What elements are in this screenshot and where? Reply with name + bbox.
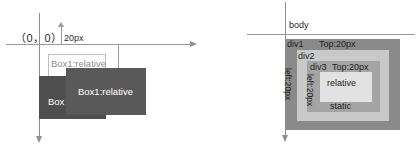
label-div3: div3	[310, 62, 327, 72]
label-div3-left: left:20px	[305, 74, 315, 106]
coordinate-offset-diagram: （0，0） 20px Box1:relative Box Box1:relati…	[0, 0, 209, 158]
label-static: static	[330, 101, 351, 111]
label-body: body	[289, 20, 309, 30]
nested-position-diagram: body div1 Top:20px left:20px div2 div3 T…	[209, 0, 417, 158]
x-axis-line	[247, 34, 415, 35]
y-axis-arrowhead	[282, 135, 288, 142]
label-div3-top: Top:20px	[332, 62, 369, 72]
box-relative-label: Box1:relative	[78, 86, 133, 97]
label-div1-left: left:20px	[283, 68, 293, 100]
origin-label: （0，0）	[15, 33, 63, 44]
x-axis-arrowhead	[190, 41, 197, 47]
label-div2: div2	[298, 51, 315, 61]
diagram-canvas: （0，0） 20px Box1:relative Box Box1:relati…	[0, 0, 417, 158]
box-static-label: Box	[48, 96, 64, 107]
label-div1-top: Top:20px	[319, 39, 356, 49]
label-div1: div1	[287, 39, 304, 49]
offset-label: 20px	[64, 34, 84, 43]
label-relative: relative	[327, 78, 356, 88]
y-axis-arrowhead	[36, 136, 42, 143]
offset-leader-line	[61, 25, 62, 45]
relative-box-connector	[118, 45, 119, 68]
x-axis-line	[6, 44, 191, 45]
